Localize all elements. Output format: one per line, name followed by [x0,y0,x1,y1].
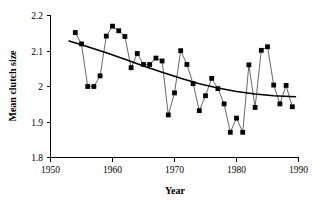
data-point-marker [240,130,245,135]
data-point-marker [141,62,146,67]
data-point-marker [147,62,152,67]
data-point-marker [160,59,165,64]
x-tick-label-1990: 1990 [289,165,308,175]
x-tick-label-1950: 1950 [41,165,60,175]
data-point-marker [123,34,128,39]
data-point-marker [154,56,159,61]
data-point-marker [98,73,103,78]
x-tick-label-1960: 1960 [103,165,122,175]
plot-background [0,0,322,212]
y-tick-label-2.2: 2.2 [31,11,43,21]
data-point-marker [116,28,121,33]
data-point-marker [92,84,97,89]
data-point-marker [284,83,289,88]
x-tick-label-1970: 1970 [165,165,184,175]
y-tick-label-1.9: 1.9 [31,118,43,128]
data-point-marker [278,102,283,107]
data-point-marker [265,44,270,49]
data-point-marker [178,48,183,53]
y-tick-label-2.1: 2.1 [31,47,43,57]
data-point-marker [104,34,109,39]
data-point-marker [172,90,177,95]
data-point-marker [290,104,295,109]
y-axis-title: Mean clutch size [7,50,18,122]
data-point-marker [110,24,115,29]
data-point-marker [129,65,134,70]
data-point-marker [222,102,227,107]
y-tick-label-2.0: 2 [38,82,43,92]
data-point-marker [271,83,276,88]
data-point-marker [85,84,90,89]
data-point-marker [135,51,140,56]
y-tick-label-1.8: 1.8 [31,153,43,163]
data-point-marker [259,48,264,53]
data-point-marker [247,62,252,67]
data-point-marker [79,42,84,47]
clutch-size-scatter-line-chart: 2.2 2.1 2 1.9 1.8 1950 1960 1970 1980 19… [0,0,322,212]
data-point-marker [253,105,258,110]
x-tick-label-1980: 1980 [227,165,246,175]
data-point-marker [191,81,196,86]
data-point-marker [228,130,233,135]
x-axis-title: Year [165,185,186,196]
data-point-marker [216,86,221,91]
data-point-marker [185,62,190,67]
data-point-marker [234,116,239,121]
data-point-marker [166,113,171,118]
data-point-marker [203,93,208,98]
data-point-marker [197,108,202,113]
data-point-marker [73,30,78,35]
figure-container: 2.2 2.1 2 1.9 1.8 1950 1960 1970 1980 19… [0,0,322,212]
data-point-marker [209,76,214,81]
